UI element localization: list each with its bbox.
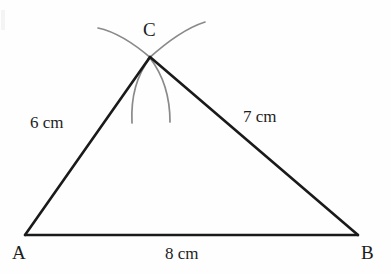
vertex-label-b: B bbox=[361, 243, 374, 262]
side-ac-line bbox=[25, 57, 150, 235]
side-label-bc: 7 cm bbox=[243, 108, 277, 125]
vertex-label-a: A bbox=[12, 243, 26, 262]
triangle-sides-group bbox=[25, 57, 358, 235]
upper-right-arc-icon bbox=[148, 22, 205, 59]
triangle-diagram: A B C 6 cm 7 cm 8 cm bbox=[0, 0, 391, 274]
side-bc-line bbox=[150, 57, 358, 235]
lower-right-arc-icon bbox=[150, 58, 170, 122]
side-label-ac: 6 cm bbox=[30, 114, 64, 131]
geometry-canvas bbox=[0, 0, 391, 274]
vertex-label-c: C bbox=[143, 20, 156, 39]
side-label-ab: 8 cm bbox=[165, 245, 199, 262]
